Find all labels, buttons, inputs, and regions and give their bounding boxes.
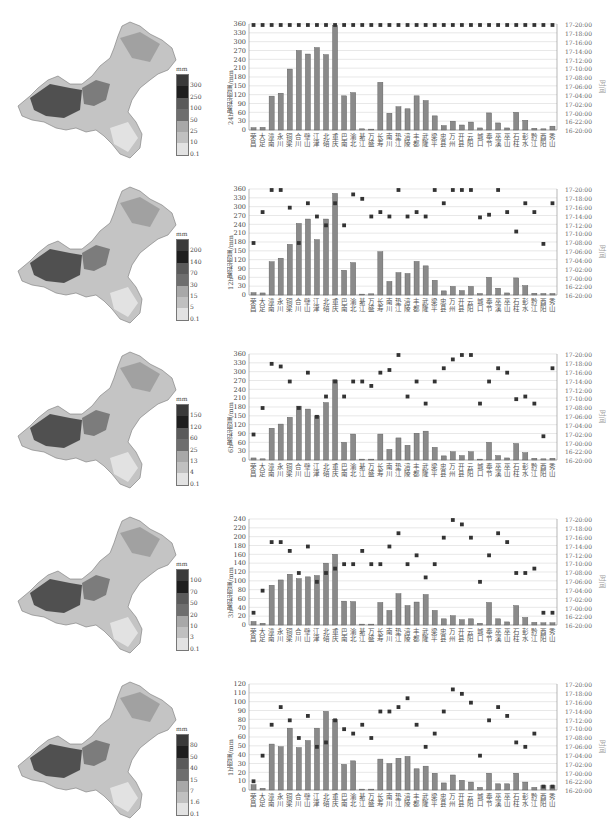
svg-text:330: 330 xyxy=(234,359,246,367)
svg-text:时间: 时间 xyxy=(598,410,607,424)
svg-text:川: 川 xyxy=(295,635,302,643)
svg-text:县: 县 xyxy=(458,305,465,313)
panel-6h: mm15012060251340.16h累积雨量/mm0306090120150… xyxy=(0,348,610,513)
svg-text:江: 江 xyxy=(395,140,402,148)
svg-text:碚: 碚 xyxy=(323,469,330,478)
svg-text:川: 川 xyxy=(295,470,302,478)
svg-text:山: 山 xyxy=(504,799,511,808)
legend-label: 50 xyxy=(190,754,198,760)
panel-12h: mm20014070301550.112h累积雨量/mm030609012015… xyxy=(0,183,610,348)
svg-text:口: 口 xyxy=(477,470,484,478)
svg-text:昌: 昌 xyxy=(250,470,257,478)
svg-text:南: 南 xyxy=(268,799,275,808)
svg-text:川: 川 xyxy=(277,305,284,313)
svg-text:120: 120 xyxy=(234,256,246,264)
svg-text:都: 都 xyxy=(413,305,420,313)
legend-swatch xyxy=(177,638,188,649)
svg-text:17-20:00: 17-20:00 xyxy=(565,351,592,358)
svg-text:16-20:00: 16-20:00 xyxy=(565,457,592,464)
svg-text:阳: 阳 xyxy=(540,469,547,478)
region-map xyxy=(0,678,185,828)
legend-swatch xyxy=(177,143,188,154)
legend-label: 50 xyxy=(190,600,198,606)
svg-text:川: 川 xyxy=(386,305,393,313)
svg-text:阳: 阳 xyxy=(467,634,474,643)
legend-label: 300 xyxy=(190,82,201,88)
svg-text:17-16:00: 17-16:00 xyxy=(565,534,592,541)
svg-text:昌: 昌 xyxy=(250,305,257,313)
svg-text:柱: 柱 xyxy=(513,469,520,478)
legend-label: 4 xyxy=(190,469,194,475)
color-legend: mm1007050201030.1 xyxy=(176,569,216,649)
svg-text:江: 江 xyxy=(395,305,402,313)
svg-text:时间: 时间 xyxy=(598,80,607,94)
svg-text:平: 平 xyxy=(431,140,438,148)
svg-text:17-08:00: 17-08:00 xyxy=(565,569,592,576)
svg-text:县: 县 xyxy=(458,635,465,643)
svg-text:17-02:00: 17-02:00 xyxy=(565,101,592,108)
svg-text:川: 川 xyxy=(277,470,284,478)
svg-text:川: 川 xyxy=(295,305,302,313)
svg-text:山: 山 xyxy=(504,304,511,313)
panel-3h: mm1007050201030.13h累积雨量/mm02040608010012… xyxy=(0,513,610,678)
svg-text:300: 300 xyxy=(234,203,246,211)
svg-text:庆: 庆 xyxy=(332,799,339,808)
svg-text:川: 川 xyxy=(386,635,393,643)
svg-text:县: 县 xyxy=(440,635,447,643)
svg-text:60: 60 xyxy=(238,595,246,603)
legend-unit: mm xyxy=(176,560,187,567)
svg-text:溪: 溪 xyxy=(495,634,502,643)
svg-text:足: 足 xyxy=(259,470,266,478)
svg-text:江: 江 xyxy=(359,470,366,478)
svg-text:盛: 盛 xyxy=(368,304,375,313)
svg-text:17-12:00: 17-12:00 xyxy=(565,57,592,64)
svg-text:南: 南 xyxy=(341,304,348,313)
legend-swatch xyxy=(177,593,188,604)
svg-text:17-00:00: 17-00:00 xyxy=(565,605,592,612)
legend-label: 100 xyxy=(190,577,201,583)
svg-text:水: 水 xyxy=(522,304,529,313)
legend-label: 150 xyxy=(190,412,201,418)
legend-label: 40 xyxy=(190,765,198,771)
svg-text:江: 江 xyxy=(359,305,366,313)
svg-text:川: 川 xyxy=(295,140,302,148)
svg-text:津: 津 xyxy=(313,470,320,478)
legend-swatch xyxy=(177,274,188,285)
svg-text:江: 江 xyxy=(395,800,402,808)
svg-text:柱: 柱 xyxy=(513,634,520,643)
svg-text:17-08:00: 17-08:00 xyxy=(565,239,592,246)
svg-text:17-00:00: 17-00:00 xyxy=(565,770,592,777)
svg-text:碚: 碚 xyxy=(323,799,330,808)
svg-text:州: 州 xyxy=(449,470,456,478)
svg-text:节: 节 xyxy=(486,800,493,808)
svg-text:南: 南 xyxy=(341,799,348,808)
color-legend: mm8050401571.60.1 xyxy=(176,734,216,814)
svg-text:阳: 阳 xyxy=(540,304,547,313)
svg-text:80: 80 xyxy=(238,586,246,594)
svg-text:隆: 隆 xyxy=(422,304,429,313)
svg-text:30: 30 xyxy=(238,760,246,768)
svg-text:川: 川 xyxy=(386,140,393,148)
svg-text:120: 120 xyxy=(234,568,246,576)
svg-text:川: 川 xyxy=(277,800,284,808)
svg-text:17-12:00: 17-12:00 xyxy=(565,717,592,724)
svg-text:江: 江 xyxy=(395,635,402,643)
svg-text:240: 240 xyxy=(234,56,246,64)
svg-text:17-16:00: 17-16:00 xyxy=(565,369,592,376)
svg-text:津: 津 xyxy=(313,800,320,808)
legend-swatch xyxy=(177,109,188,120)
svg-text:17-20:00: 17-20:00 xyxy=(565,21,592,28)
legend-swatch xyxy=(177,240,188,251)
svg-text:17-14:00: 17-14:00 xyxy=(565,378,592,385)
svg-text:梁: 梁 xyxy=(286,139,293,148)
svg-text:270: 270 xyxy=(234,212,246,220)
svg-text:南: 南 xyxy=(341,634,348,643)
svg-text:210: 210 xyxy=(234,229,246,237)
legend-label: 60 xyxy=(190,435,198,441)
svg-text:足: 足 xyxy=(259,635,266,643)
svg-text:梁: 梁 xyxy=(286,304,293,313)
legend-label: 3 xyxy=(190,634,194,640)
svg-text:17-04:00: 17-04:00 xyxy=(565,92,592,99)
legend-swatch xyxy=(177,121,188,132)
svg-text:溪: 溪 xyxy=(495,304,502,313)
